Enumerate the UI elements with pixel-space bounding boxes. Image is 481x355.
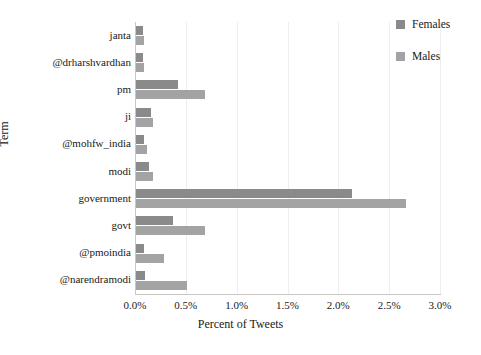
bar-females-narendramodi [135,271,145,280]
legend-label-females: Females [412,18,450,30]
bar-females-modi [135,162,149,171]
bar-males-govt [135,226,205,235]
bar-males-narendramodi [135,281,187,290]
y-axis-tick-labels: janta@drharshvardhanpmji@mohfw_indiamodi… [0,22,131,294]
bar-females-drharshvardhan [135,53,143,62]
x-tick-label-2.0%: 2.0% [327,299,350,311]
bar-males-drharshvardhan [135,63,144,72]
y-tick-label-ji: ji [3,111,131,122]
y-tick-label-govt: govt [3,220,131,231]
y-tick-label-pmoindia: @pmoindia [3,247,131,258]
y-tick-label-narendramodi: @narendramodi [3,274,131,285]
bar-males-modi [135,172,153,181]
bar-group-ji [135,104,440,131]
y-tick-label-modi: modi [3,166,131,177]
top-edge-artifact [0,0,481,10]
bar-males-pm [135,90,205,99]
bar-males-ji [135,118,153,127]
bar-females-mohfw_india [135,135,144,144]
legend-swatch-females-icon [396,20,405,29]
x-tick-label-3.0%: 3.0% [429,299,452,311]
y-tick-label-mohfw_india: @mohfw_india [3,138,131,149]
legend-swatch-males-icon [396,52,405,61]
x-axis-title: Percent of Tweets [0,317,481,332]
bar-group-govt [135,212,440,239]
y-tick-label-government: government [3,193,131,204]
bar-group-janta [135,22,440,49]
bar-females-pmoindia [135,244,144,253]
x-tick-label-0.5%: 0.5% [174,299,197,311]
x-tick-label-1.5%: 1.5% [276,299,299,311]
bar-females-govt [135,216,173,225]
bar-group-drharshvardhan [135,49,440,76]
y-axis-line [135,22,136,294]
bar-group-pm [135,76,440,103]
bar-group-mohfw_india [135,131,440,158]
bar-males-janta [135,36,144,45]
bar-females-janta [135,26,143,35]
bar-females-government [135,189,352,198]
legend-label-males: Males [412,50,440,62]
bar-males-mohfw_india [135,145,147,154]
x-axis-line [135,294,441,295]
bar-females-ji [135,108,151,117]
bar-group-government [135,185,440,212]
x-tick-label-1.0%: 1.0% [225,299,248,311]
legend: Females Males [396,18,481,82]
bar-group-narendramodi [135,267,440,294]
y-tick-label-janta: janta [3,30,131,41]
bars-layer [135,22,440,294]
y-tick-label-pm: pm [3,84,131,95]
legend-item-males: Males [396,50,481,62]
x-tick-label-2.5%: 2.5% [378,299,401,311]
bar-group-pmoindia [135,240,440,267]
bar-group-modi [135,158,440,185]
y-axis-title: Term [0,121,12,146]
bar-males-pmoindia [135,254,164,263]
y-tick-label-drharshvardhan: @drharshvardhan [3,57,131,68]
bar-males-government [135,199,406,208]
bar-females-pm [135,80,178,89]
legend-item-females: Females [396,18,481,30]
x-tick-label-0.0%: 0.0% [124,299,147,311]
bar-chart: janta@drharshvardhanpmji@mohfw_indiamodi… [0,0,481,355]
